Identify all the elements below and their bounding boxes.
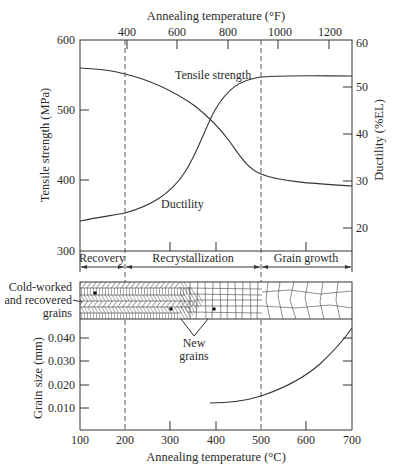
svg-text:New: New bbox=[183, 336, 206, 350]
upper-bottom-ticks bbox=[170, 242, 306, 251]
svg-text:400: 400 bbox=[57, 173, 75, 187]
svg-text:400: 400 bbox=[118, 25, 136, 39]
svg-text:30: 30 bbox=[356, 174, 368, 188]
ductility-ticks: 60 50 40 30 20 bbox=[343, 36, 368, 235]
svg-text:50: 50 bbox=[356, 80, 368, 94]
svg-text:0.020: 0.020 bbox=[48, 378, 75, 392]
ductility-axis-title: Ductility (%EL) bbox=[372, 99, 386, 181]
tensile-strength-label: Tensile strength bbox=[175, 68, 251, 82]
fahrenheit-ticks: 400 600 800 1000 1200 bbox=[118, 25, 342, 49]
svg-text:60: 60 bbox=[356, 36, 368, 50]
svg-text:600: 600 bbox=[57, 33, 75, 47]
tensile-strength-curve bbox=[80, 68, 352, 186]
svg-text:600: 600 bbox=[297, 433, 315, 447]
svg-text:700: 700 bbox=[343, 433, 361, 447]
svg-text:800: 800 bbox=[219, 25, 237, 39]
ductility-label: Ductility bbox=[161, 197, 204, 211]
annealing-chart: Annealing temperature (°F) 400 600 800 1… bbox=[0, 0, 396, 470]
svg-text:and recovered: and recovered bbox=[4, 293, 72, 307]
bottom-axis-title: Annealing temperature (°C) bbox=[146, 450, 286, 464]
grain-size-curve bbox=[210, 328, 352, 403]
svg-text:Cold-worked: Cold-worked bbox=[9, 280, 72, 294]
grain-size-axis-title: Grain size (mm) bbox=[31, 337, 45, 419]
svg-text:40: 40 bbox=[356, 127, 368, 141]
region-recrystallization: Recrystallization bbox=[152, 251, 233, 265]
svg-text:600: 600 bbox=[168, 25, 186, 39]
svg-text:300: 300 bbox=[161, 433, 179, 447]
region-arrows: Recovery Recrystallization Grain growth bbox=[79, 251, 352, 272]
tensile-axis-title: Tensile strength (MPa) bbox=[38, 88, 52, 202]
celsius-tick-labels: 100 200 300 400 500 600 700 bbox=[71, 433, 361, 447]
microstructure-strip bbox=[80, 282, 352, 319]
svg-text:0.030: 0.030 bbox=[48, 354, 75, 368]
svg-text:1000: 1000 bbox=[268, 25, 292, 39]
svg-text:1200: 1200 bbox=[318, 25, 342, 39]
region-grain-growth: Grain growth bbox=[274, 251, 338, 265]
svg-text:grains: grains bbox=[43, 306, 73, 320]
svg-text:500: 500 bbox=[57, 103, 75, 117]
svg-text:200: 200 bbox=[116, 433, 134, 447]
mpa-ticks: 600 500 400 300 bbox=[57, 33, 89, 258]
svg-text:20: 20 bbox=[356, 221, 368, 235]
top-axis-title: Annealing temperature (°F) bbox=[147, 9, 285, 23]
svg-text:300: 300 bbox=[57, 244, 75, 258]
svg-text:500: 500 bbox=[252, 433, 270, 447]
svg-text:100: 100 bbox=[71, 433, 89, 447]
svg-text:0.010: 0.010 bbox=[48, 401, 75, 415]
svg-text:0.040: 0.040 bbox=[48, 331, 75, 345]
svg-text:400: 400 bbox=[207, 433, 225, 447]
svg-text:grains: grains bbox=[179, 349, 209, 363]
ductility-curve bbox=[80, 76, 352, 221]
region-recovery: Recovery bbox=[79, 251, 125, 265]
